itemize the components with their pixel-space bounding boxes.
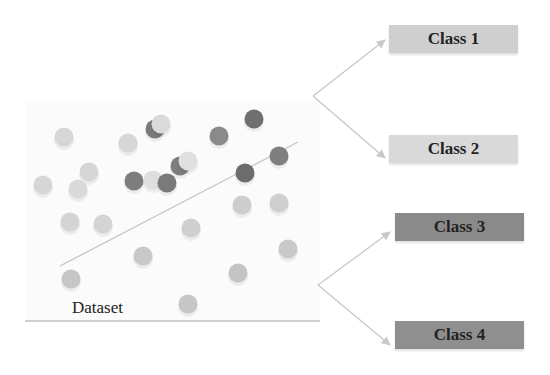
arrow (318, 232, 390, 285)
class-box-3: Class 3 (395, 213, 524, 241)
data-point (125, 172, 144, 191)
data-point (94, 215, 113, 234)
data-point (270, 147, 289, 166)
class-box-1: Class 1 (389, 25, 518, 53)
data-point (61, 213, 80, 232)
data-point (152, 115, 171, 134)
class-box-4: Class 4 (395, 321, 524, 349)
arrow (313, 40, 385, 96)
classification-diagram (0, 0, 550, 375)
data-point (55, 128, 74, 147)
data-point (270, 194, 289, 213)
data-point (179, 152, 198, 171)
data-point (182, 219, 201, 238)
data-point (80, 163, 99, 182)
data-point (62, 270, 81, 289)
class-arrows (313, 40, 390, 345)
data-point (233, 196, 252, 215)
data-point (210, 127, 229, 146)
arrow (313, 96, 385, 158)
data-point (179, 295, 198, 314)
data-point (279, 240, 298, 259)
data-point (229, 264, 248, 283)
data-point (69, 180, 88, 199)
data-point (119, 134, 138, 153)
data-point (245, 110, 264, 129)
data-point (134, 247, 153, 266)
data-point (34, 176, 53, 195)
data-point (236, 164, 255, 183)
dataset-label: Dataset (72, 298, 123, 318)
arrow (318, 285, 390, 345)
class-box-2: Class 2 (389, 135, 518, 163)
